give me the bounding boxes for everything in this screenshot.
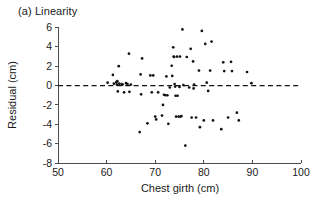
x-axis-tick-label: 100 <box>292 166 310 178</box>
data-point <box>188 86 191 89</box>
data-point <box>201 30 204 33</box>
data-point <box>126 83 129 86</box>
data-point <box>138 131 141 134</box>
data-point <box>237 119 240 122</box>
y-axis-tick-label: 0 <box>46 79 52 91</box>
data-point <box>180 115 183 118</box>
data-point <box>189 47 192 50</box>
data-point <box>117 65 120 68</box>
data-point <box>106 81 109 84</box>
data-point <box>166 94 169 97</box>
y-axis-title: Residual (cm) <box>6 61 18 129</box>
data-point <box>192 60 195 63</box>
y-axis-tick-label: -2 <box>43 99 52 111</box>
data-point <box>198 69 201 72</box>
data-point <box>212 119 215 122</box>
data-point <box>173 56 176 59</box>
data-point <box>176 55 179 58</box>
scatter-plot-canvas: 6420-2-4-6-8 5060708090100 Chest girth (… <box>0 0 325 200</box>
data-point <box>227 116 230 119</box>
x-axis-tick-label: 70 <box>149 166 161 178</box>
y-axis-tick-label: 2 <box>46 60 52 72</box>
data-point <box>162 104 165 107</box>
data-point <box>250 82 253 85</box>
x-axis-title: Chest girth (cm) <box>141 182 219 194</box>
data-point <box>230 61 233 64</box>
data-point <box>192 87 195 90</box>
y-axis-tick-label: -6 <box>43 137 52 149</box>
data-point <box>178 86 181 89</box>
data-point <box>185 56 188 59</box>
data-point <box>150 91 153 94</box>
data-point <box>202 119 205 122</box>
data-point <box>173 83 176 86</box>
data-point <box>167 122 170 125</box>
y-axis-tick-label: 6 <box>46 21 52 33</box>
data-point <box>146 122 149 125</box>
data-point <box>179 55 182 58</box>
data-point <box>205 81 208 84</box>
data-point <box>140 93 143 96</box>
data-point <box>112 74 115 77</box>
data-point <box>161 114 164 117</box>
data-point <box>193 83 196 86</box>
x-axis-tick-label: 50 <box>52 166 64 178</box>
data-point <box>236 111 239 114</box>
y-axis-tick-labels: 6420-2-4-6-8 <box>43 21 53 169</box>
data-point <box>172 46 175 49</box>
y-axis-tick-label: -4 <box>43 118 52 130</box>
x-axis-tick-labels: 5060708090100 <box>52 166 310 178</box>
linearity-residual-plot: (a) Linearity 6420-2-4-6-8 5060708090100… <box>0 0 325 200</box>
data-point <box>116 90 119 93</box>
data-point <box>209 69 212 72</box>
x-axis-tick-label: 80 <box>198 166 210 178</box>
data-point <box>231 70 234 73</box>
data-point <box>220 128 223 131</box>
data-point <box>165 75 168 78</box>
data-point <box>195 116 198 119</box>
data-point <box>118 82 121 85</box>
data-point <box>157 91 160 94</box>
y-axis-tick-label: -8 <box>43 157 52 169</box>
data-point <box>204 43 207 46</box>
data-point <box>128 91 131 94</box>
data-point <box>246 71 249 74</box>
data-point <box>141 57 144 60</box>
data-point <box>115 83 118 86</box>
data-point <box>121 83 124 86</box>
data-point <box>210 40 213 43</box>
data-point <box>139 73 142 76</box>
data-point <box>168 86 171 89</box>
data-point <box>223 70 226 73</box>
data-point <box>113 82 116 85</box>
data-point <box>170 64 173 67</box>
data-points <box>106 28 253 147</box>
data-point <box>149 74 152 77</box>
x-axis-tick-label: 60 <box>101 166 113 178</box>
x-axis-tick-label: 90 <box>247 166 259 178</box>
data-point <box>116 80 119 83</box>
data-point <box>154 115 157 118</box>
data-point <box>176 94 179 97</box>
data-point <box>199 126 202 129</box>
data-point <box>181 28 184 31</box>
data-point <box>130 83 133 86</box>
data-point <box>182 84 185 87</box>
data-point <box>128 52 131 55</box>
data-point <box>175 115 178 118</box>
data-point <box>123 91 126 94</box>
data-point <box>171 75 174 78</box>
data-point <box>222 61 225 64</box>
y-axis-ticks <box>55 28 59 164</box>
data-point <box>152 74 155 77</box>
x-axis-ticks <box>58 160 301 164</box>
data-point <box>190 116 193 119</box>
y-axis-tick-label: 4 <box>46 40 52 52</box>
data-point <box>174 85 177 88</box>
data-point <box>207 90 210 93</box>
data-point <box>184 144 187 147</box>
data-point <box>155 118 158 121</box>
